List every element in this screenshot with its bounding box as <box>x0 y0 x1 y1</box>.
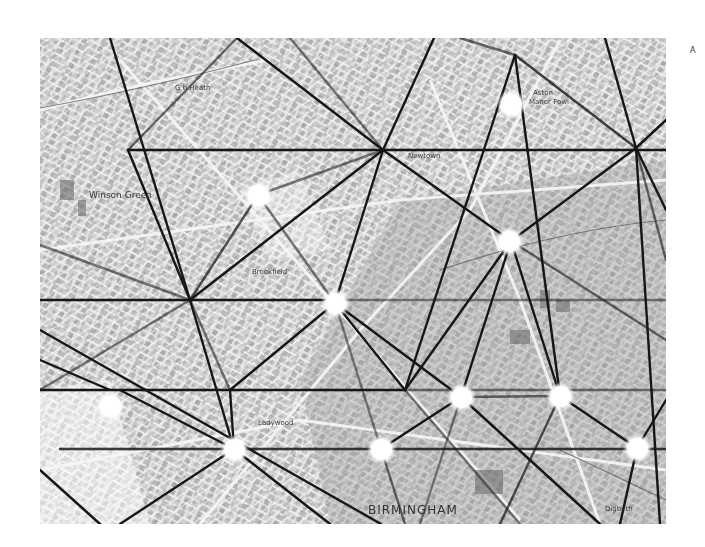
node-circle[interactable] <box>248 185 269 206</box>
node-circle[interactable] <box>371 439 392 460</box>
place-label-newtown: Newtown <box>408 152 440 160</box>
node-circle[interactable] <box>224 439 245 460</box>
place-label-winson-green: Winson Green <box>89 190 152 200</box>
map-area[interactable] <box>40 38 666 524</box>
place-label-aston: Aston <box>533 89 553 97</box>
node-circle[interactable] <box>451 387 472 408</box>
node-circle[interactable] <box>627 438 648 459</box>
place-label-manor: Manor Fowl <box>529 98 569 106</box>
map-canvas <box>40 38 666 524</box>
place-label-ladywood: Ladywood <box>258 419 294 427</box>
grid-corner-mark: A <box>690 46 695 55</box>
node-circle[interactable] <box>550 386 571 407</box>
place-label-digbeth: Digbeth <box>605 505 633 513</box>
place-label-brookfield: Brookfield <box>252 268 287 276</box>
node-circle[interactable] <box>501 94 522 115</box>
node-circle[interactable] <box>100 396 121 417</box>
place-label-gb-heath: G b Heath <box>175 84 210 92</box>
city-label-birmingham: BIRMINGHAM <box>368 503 458 517</box>
node-circle[interactable] <box>499 231 520 252</box>
node-circle[interactable] <box>325 293 346 314</box>
